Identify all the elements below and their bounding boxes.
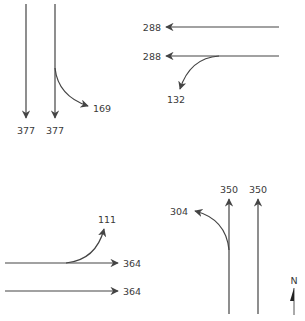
eastbound-approach: 111 364 364 <box>5 214 141 297</box>
eb-through-volume-2: 364 <box>123 286 141 297</box>
wb-through-volume-2: 288 <box>143 51 161 62</box>
eb-left-turn-arrow <box>66 229 104 263</box>
eb-left-turn-volume: 111 <box>98 214 116 225</box>
nb-through-volume-1: 350 <box>220 184 238 195</box>
sb-left-turn-volume: 169 <box>93 103 111 114</box>
sb-through-volume-1: 377 <box>17 125 35 136</box>
wb-left-turn-arrow <box>180 56 219 89</box>
nb-left-turn-arrow <box>195 211 229 250</box>
westbound-approach: 288 288 132 <box>143 22 279 106</box>
southbound-approach: 377 377 169 <box>17 4 111 136</box>
north-label: N <box>290 275 297 286</box>
northbound-approach: 350 350 304 <box>170 184 267 314</box>
sb-through-volume-2: 377 <box>46 125 64 136</box>
eb-through-volume-1: 364 <box>123 258 141 269</box>
wb-through-volume-1: 288 <box>143 22 161 33</box>
north-arrow-icon <box>290 288 294 301</box>
north-arrow: N <box>290 275 298 315</box>
traffic-volume-diagram: 377 377 169 288 288 132 111 364 364 350 … <box>0 0 305 321</box>
nb-left-turn-volume: 304 <box>170 206 188 217</box>
wb-left-turn-volume: 132 <box>167 94 185 105</box>
nb-through-volume-2: 350 <box>249 184 267 195</box>
sb-left-turn-arrow <box>55 68 88 106</box>
